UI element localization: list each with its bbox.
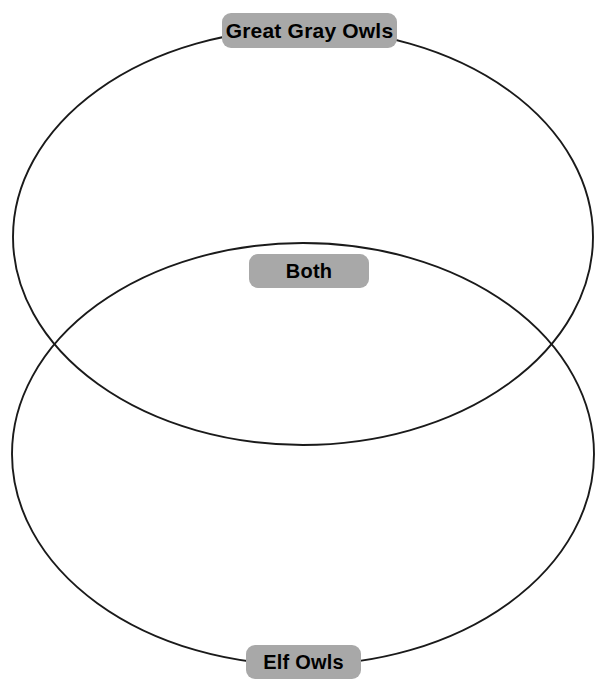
venn-ellipse-great-gray-owls[interactable] <box>13 29 593 445</box>
venn-label-great-gray-owls[interactable]: Great Gray Owls <box>222 13 397 48</box>
venn-diagram: Great Gray Owls Both Elf Owls <box>0 0 607 691</box>
venn-ellipse-elf-owls[interactable] <box>12 243 594 665</box>
venn-label-elf-owls[interactable]: Elf Owls <box>246 645 361 679</box>
venn-label-both[interactable]: Both <box>249 254 369 288</box>
venn-circles-canvas <box>0 0 607 691</box>
